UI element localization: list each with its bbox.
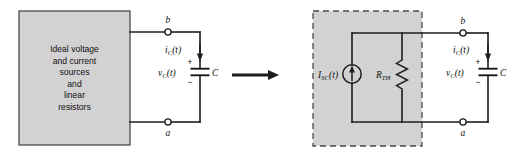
voltage-label-right: vC(t) [446,68,464,79]
terminal-label-a-left: a [166,128,171,138]
capacitor-minus-sign-left: − [187,77,192,87]
source-box-line-5: linear [64,90,85,100]
transform-arrow-group [232,70,279,80]
terminal-node-b-left [165,29,171,35]
source-box-line-2: and current [53,56,97,66]
circuit-figure: Ideal voltage and current sources and li… [0,0,515,156]
implies-arrow-head [268,70,279,80]
source-box-line-6: resistors [58,102,90,112]
terminal-node-a-right [460,119,466,125]
capacitor-plus-sign-right: + [475,57,480,67]
current-label-left: iC(t) [165,45,181,56]
circuit-diagram-svg: Ideal voltage and current sources and li… [0,0,515,156]
terminal-label-a-right: a [461,128,466,138]
capacitor-label-left: C [212,68,219,78]
capacitor-label-right: C [500,68,507,78]
right-circuit-group: ISC(t) RTH b a C iC(t) + − [313,11,507,146]
voltage-label-left: vC(t) [158,68,176,79]
terminal-node-b-right [460,30,466,36]
current-arrow-head-left [197,54,203,62]
capacitor-minus-sign-right: − [475,77,480,87]
current-label-right: iC(t) [453,45,469,56]
source-box-line-1: Ideal voltage [50,44,99,54]
left-circuit-group: Ideal voltage and current sources and li… [19,11,219,145]
terminal-node-a-left [165,119,171,125]
terminal-label-b-left: b [166,15,171,25]
source-box-line-4: and [67,79,82,89]
terminal-label-b-right: b [461,16,466,26]
capacitor-plus-sign-left: + [187,57,192,67]
current-arrow-head-right [485,54,491,62]
source-box-line-3: sources [59,67,89,77]
